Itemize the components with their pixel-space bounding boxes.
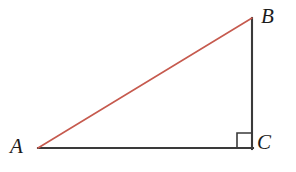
vertex-label-c: C [257, 132, 271, 153]
geometry-figure-canvas: A B C [0, 0, 296, 172]
vertex-label-b: B [261, 6, 274, 27]
triangle-drawing [0, 0, 296, 172]
vertex-label-a: A [10, 136, 23, 157]
right-angle-marker-icon [237, 133, 252, 148]
segment-ab-hypotenuse [38, 18, 252, 148]
